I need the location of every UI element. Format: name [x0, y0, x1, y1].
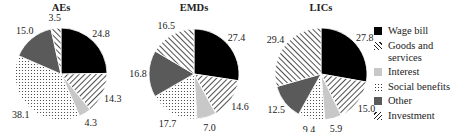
- pie-title: AEs: [52, 2, 71, 13]
- legend-label: Investment: [388, 110, 435, 122]
- pie-lics: 27.815.05.99.412.529.4LICs: [267, 2, 375, 132]
- legend-item: Wage bill: [374, 25, 454, 37]
- legend: Wage billGoods and servicesInterestSocia…: [374, 25, 454, 124]
- slice-value-label: 29.4: [267, 34, 285, 45]
- legend-swatch-icon: [374, 27, 382, 35]
- slice-value-label: 14.6: [231, 101, 249, 112]
- slice-value-label: 27.8: [356, 32, 374, 43]
- legend-label: Interest: [388, 66, 420, 78]
- slice-value-label: 4.3: [85, 117, 98, 128]
- slice-value-label: 9.4: [303, 124, 316, 132]
- slice-value-label: 24.8: [92, 28, 110, 39]
- legend-label: Social benefits: [388, 81, 450, 93]
- legend-item: Investment: [374, 110, 454, 122]
- pie-aes: 24.814.34.338.115.03.5AEs: [12, 2, 121, 128]
- slice-value-label: 16.8: [129, 68, 147, 79]
- legend-item: Social benefits: [374, 81, 454, 93]
- pie-title: LICs: [310, 2, 333, 13]
- slice-value-label: 15.0: [358, 103, 376, 114]
- legend-label: Wage bill: [388, 25, 428, 37]
- legend-swatch-icon: [374, 112, 382, 120]
- legend-swatch-icon: [374, 97, 382, 105]
- slice-value-label: 3.5: [48, 12, 61, 23]
- legend-item: Interest: [374, 66, 454, 78]
- slice-value-label: 15.0: [16, 25, 34, 36]
- slice-value-label: 7.0: [203, 122, 216, 132]
- pie-title: EMDs: [180, 2, 209, 13]
- slice-value-label: 12.5: [268, 104, 286, 115]
- legend-label: Goods and services: [388, 40, 454, 64]
- slice-value-label: 5.9: [330, 123, 343, 132]
- slice-value-label: 14.3: [104, 93, 122, 104]
- legend-swatch-icon: [374, 68, 382, 76]
- legend-item: Other: [374, 95, 454, 107]
- legend-swatch-icon: [374, 83, 382, 91]
- legend-item: Goods and services: [374, 40, 454, 64]
- slice-value-label: 16.5: [158, 20, 176, 31]
- pie-emds: 27.414.67.017.716.816.5EMDs: [129, 2, 248, 132]
- slice-value-label: 38.1: [12, 109, 30, 120]
- legend-label: Other: [388, 95, 412, 107]
- slice-value-label: 27.4: [228, 32, 246, 43]
- legend-swatch-icon: [374, 42, 382, 50]
- slice-value-label: 17.7: [159, 118, 177, 129]
